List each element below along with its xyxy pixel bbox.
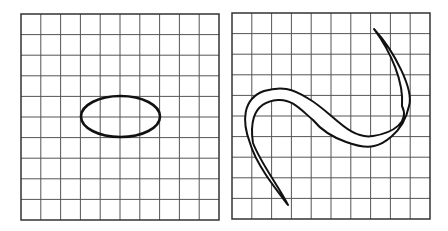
s-curve-panel (232, 13, 430, 219)
s-curve-shape (245, 29, 410, 205)
ellipse-panel (21, 14, 219, 220)
diagram-canvas (0, 0, 448, 231)
grid (21, 14, 219, 220)
